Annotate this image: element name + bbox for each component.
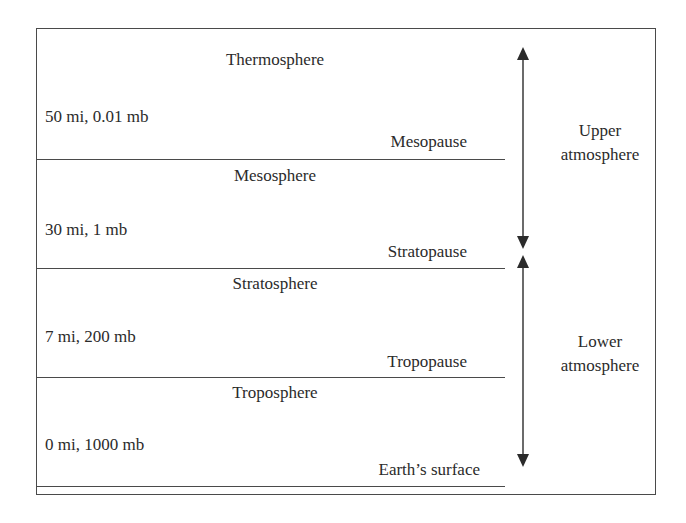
upper-atmosphere-arrow-icon [517, 47, 529, 249]
region-arrows [0, 0, 686, 523]
lower-atmosphere-arrow-icon [517, 255, 529, 467]
